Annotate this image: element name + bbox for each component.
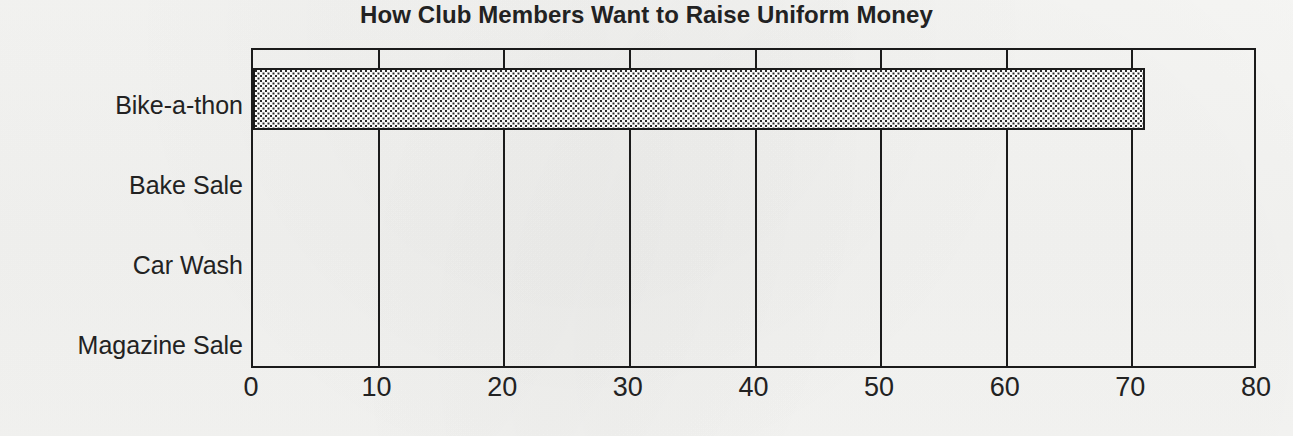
y-axis-label-bike-a-thon: Bike-a-thon — [0, 91, 243, 120]
bars-layer — [253, 50, 1254, 366]
y-axis-label-bake-sale: Bake Sale — [0, 171, 243, 200]
chart-title: How Club Members Want to Raise Uniform M… — [0, 1, 1293, 29]
x-axis-tick-40: 40 — [738, 372, 768, 403]
x-axis-tick-80: 80 — [1241, 372, 1271, 403]
y-axis-category-labels: Bike-a-thonBake SaleCar WashMagazine Sal… — [0, 48, 243, 368]
y-axis-label-magazine-sale: Magazine Sale — [0, 331, 243, 360]
x-axis-tick-70: 70 — [1115, 372, 1145, 403]
x-axis-tick-labels: 01020304050607080 — [0, 372, 1293, 412]
x-axis-tick-50: 50 — [864, 372, 894, 403]
x-axis-tick-30: 30 — [613, 372, 643, 403]
x-axis-tick-60: 60 — [990, 372, 1020, 403]
bar-chart-figure: How Club Members Want to Raise Uniform M… — [0, 0, 1293, 436]
x-axis-tick-20: 20 — [487, 372, 517, 403]
y-axis-label-car-wash: Car Wash — [0, 251, 243, 280]
bar-bike-a-thon — [253, 68, 1145, 130]
x-axis-tick-0: 0 — [243, 372, 258, 403]
plot-area — [251, 48, 1256, 368]
x-axis-tick-10: 10 — [362, 372, 392, 403]
